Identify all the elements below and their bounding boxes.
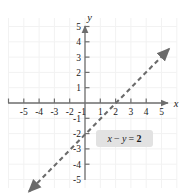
equation-label: x − y = 2 <box>96 130 153 147</box>
x-axis-label: x <box>173 98 179 109</box>
x-tick-label: 2 <box>113 107 118 117</box>
y-tick-label: -4 <box>73 160 81 170</box>
y-axis-ticks <box>85 27 90 165</box>
x-tick-label: -5 <box>20 107 28 117</box>
equation-value: 2 <box>136 133 141 144</box>
x-tick-label: -3 <box>50 107 58 117</box>
x-tick-label: 4 <box>144 107 149 117</box>
y-axis-label: y <box>86 12 92 23</box>
x-tick-label: 5 <box>159 107 164 117</box>
x-axis-ticks <box>9 99 147 104</box>
x-tick-label: 3 <box>129 107 134 117</box>
y-tick-label: -2 <box>73 129 81 139</box>
line-arrow-tail <box>29 187 34 192</box>
coordinate-plane: -5 -4 -3 -2 -1 1 2 3 4 5 5 4 3 2 1 -1 -2… <box>0 0 184 193</box>
equation-term-x: x <box>107 133 112 144</box>
y-tick-label: 3 <box>76 53 81 63</box>
x-tick-label: 1 <box>98 107 103 117</box>
graph-figure: -5 -4 -3 -2 -1 1 2 3 4 5 5 4 3 2 1 -1 -2… <box>0 0 184 193</box>
equation-term-y: y <box>122 133 127 144</box>
y-tick-label: 2 <box>76 68 81 78</box>
y-tick-label: 4 <box>76 37 81 47</box>
y-tick-label: -3 <box>73 144 81 154</box>
y-tick-label: -5 <box>73 175 81 185</box>
y-tick-label: 1 <box>76 83 81 93</box>
x-tick-labels: -5 -4 -3 -2 -1 1 2 3 4 5 <box>20 107 164 117</box>
x-tick-label: -4 <box>35 107 43 117</box>
equation-equals-sign: = <box>129 133 135 144</box>
y-tick-label: 5 <box>76 22 81 32</box>
equation-operator-minus: − <box>114 133 120 144</box>
y-tick-label: -1 <box>73 114 81 124</box>
